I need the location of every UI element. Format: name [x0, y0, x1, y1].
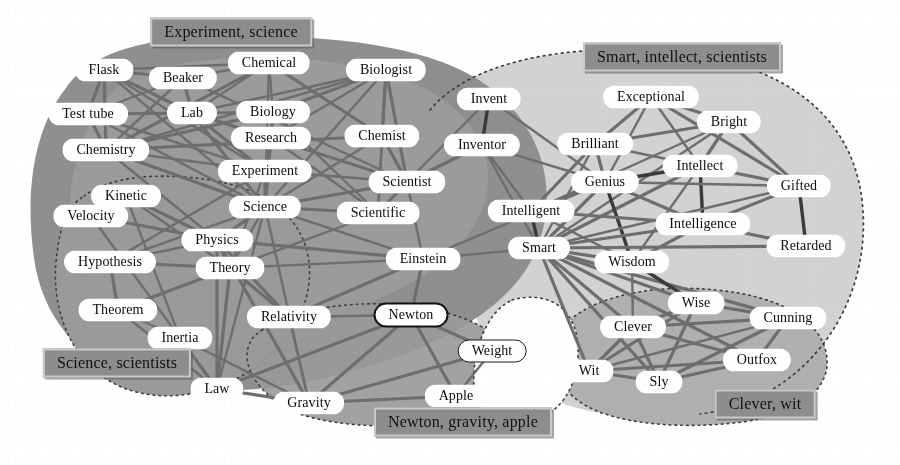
network-diagram: FlaskBeakerChemicalBiologistTest tubeLab…: [0, 0, 900, 465]
node-label: Research: [245, 130, 297, 145]
node-cunning[interactable]: Cunning: [750, 307, 827, 330]
node-biology[interactable]: Biology: [236, 101, 310, 124]
node-label: Exceptional: [617, 89, 685, 104]
node-beaker[interactable]: Beaker: [149, 67, 217, 90]
node-velocity[interactable]: Velocity: [53, 205, 128, 228]
node-label: Apple: [439, 388, 474, 403]
node-label: Chemist: [358, 128, 405, 143]
node-label: Retarded: [780, 238, 831, 253]
node-chemistry[interactable]: Chemistry: [62, 139, 149, 162]
node-gravity[interactable]: Gravity: [273, 392, 344, 415]
cluster-label-text: Clever, wit: [729, 395, 802, 412]
node-label: Invent: [471, 91, 507, 106]
node-science[interactable]: Science: [229, 196, 301, 219]
node-chemist[interactable]: Chemist: [344, 125, 419, 148]
node-test-tube[interactable]: Test tube: [48, 103, 128, 126]
node-outfox[interactable]: Outfox: [723, 349, 791, 372]
node-label: Einstein: [400, 251, 447, 266]
node-label: Physics: [195, 232, 239, 247]
node-label: Scientist: [382, 174, 431, 189]
node-wisdom[interactable]: Wisdom: [594, 251, 669, 274]
node-genius[interactable]: Genius: [571, 171, 639, 194]
cluster-label-text: Science, scientists: [57, 354, 177, 371]
node-label: Theory: [209, 260, 250, 275]
node-invent[interactable]: Invent: [457, 88, 521, 111]
node-label: Cunning: [764, 310, 813, 325]
node-biologist[interactable]: Biologist: [346, 59, 426, 82]
node-label: Weight: [472, 343, 513, 358]
node-intellect[interactable]: Intellect: [663, 155, 738, 178]
node-weight[interactable]: Weight: [458, 340, 527, 363]
node-label: Genius: [585, 174, 625, 189]
node-physics[interactable]: Physics: [181, 229, 253, 252]
node-label: Intelligent: [502, 203, 561, 218]
node-label: Brilliant: [571, 136, 619, 151]
node-brilliant[interactable]: Brilliant: [557, 133, 633, 156]
node-label: Scientific: [351, 205, 406, 220]
node-gifted[interactable]: Gifted: [767, 175, 831, 198]
node-label: Experiment: [232, 163, 298, 178]
cluster-label-text: Newton, gravity, apple: [388, 413, 538, 430]
cluster-label-experiment-science: Experiment, science: [150, 18, 312, 47]
node-retarded[interactable]: Retarded: [766, 235, 845, 258]
node-newton[interactable]: Newton: [374, 303, 449, 328]
node-label: Sly: [650, 374, 669, 389]
node-label: Newton: [389, 307, 434, 322]
node-bright[interactable]: Bright: [697, 111, 761, 134]
node-experiment[interactable]: Experiment: [218, 160, 312, 183]
node-inertia[interactable]: Inertia: [147, 327, 212, 350]
node-smart[interactable]: Smart: [508, 237, 570, 260]
node-theory[interactable]: Theory: [195, 257, 264, 280]
node-apple[interactable]: Apple: [425, 385, 488, 408]
node-label: Smart: [522, 240, 556, 255]
node-label: Beaker: [163, 70, 203, 85]
node-research[interactable]: Research: [231, 127, 311, 150]
cluster-label-text: Smart, intellect, scientists: [597, 48, 767, 65]
node-label: Lab: [181, 105, 203, 120]
cluster-label-text: Experiment, science: [164, 23, 298, 40]
node-label: Wise: [682, 295, 711, 310]
node-label: Inventor: [458, 137, 506, 152]
node-label: Intellect: [677, 158, 724, 173]
node-label: Test tube: [62, 106, 114, 121]
cluster-label-science-scientists: Science, scientists: [43, 349, 191, 378]
node-wit[interactable]: Wit: [565, 360, 614, 383]
node-hypothesis[interactable]: Hypothesis: [64, 251, 156, 274]
node-label: Hypothesis: [78, 254, 142, 269]
node-label: Velocity: [67, 208, 114, 223]
node-sly[interactable]: Sly: [636, 371, 683, 394]
node-wise[interactable]: Wise: [668, 292, 725, 315]
cluster-label-smart-intellect-scientists: Smart, intellect, scientists: [583, 43, 781, 72]
node-law[interactable]: Law: [190, 378, 243, 401]
node-label: Bright: [711, 114, 747, 129]
node-exceptional[interactable]: Exceptional: [603, 86, 699, 109]
node-label: Wisdom: [608, 254, 655, 269]
node-scientist[interactable]: Scientist: [368, 171, 445, 194]
node-label: Intelligence: [669, 216, 736, 231]
node-label: Gifted: [781, 178, 817, 193]
node-einstein[interactable]: Einstein: [386, 248, 461, 271]
node-label: Inertia: [161, 330, 198, 345]
node-lab[interactable]: Lab: [167, 102, 217, 125]
node-label: Gravity: [287, 395, 330, 410]
node-label: Law: [204, 381, 229, 396]
node-intelligence[interactable]: Intelligence: [655, 213, 750, 236]
node-scientific[interactable]: Scientific: [337, 202, 420, 225]
node-relativity[interactable]: Relativity: [247, 306, 331, 329]
node-label: Chemistry: [76, 142, 135, 157]
cluster-label-clever-wit: Clever, wit: [715, 390, 816, 419]
node-chemical[interactable]: Chemical: [228, 52, 310, 75]
node-theorem[interactable]: Theorem: [78, 299, 157, 322]
node-label: Flask: [89, 62, 120, 77]
node-flask[interactable]: Flask: [75, 59, 134, 82]
node-clever[interactable]: Clever: [600, 316, 666, 339]
node-label: Outfox: [737, 352, 777, 367]
node-label: Biology: [250, 104, 296, 119]
node-intelligent[interactable]: Intelligent: [488, 200, 575, 223]
node-label: Theorem: [92, 302, 143, 317]
node-label: Biologist: [360, 62, 412, 77]
cluster-label-newton-gravity-apple: Newton, gravity, apple: [374, 408, 552, 437]
node-label: Kinetic: [105, 188, 147, 203]
node-inventor[interactable]: Inventor: [444, 134, 520, 157]
node-label: Clever: [614, 319, 652, 334]
